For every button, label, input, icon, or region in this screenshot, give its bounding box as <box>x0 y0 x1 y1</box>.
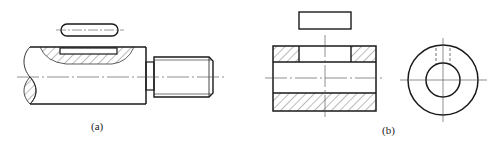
shaft-neck <box>146 62 154 90</box>
hub-end-view <box>400 38 487 122</box>
subfigure-label-a: (a) <box>91 120 103 132</box>
rect-key <box>299 12 351 29</box>
subfigure-label-b: (b) <box>382 124 395 136</box>
rounded-key <box>56 24 124 36</box>
figure-a <box>17 24 225 104</box>
key-in-seat <box>60 48 117 54</box>
figure-b <box>265 12 487 122</box>
drawing-canvas <box>0 0 503 147</box>
